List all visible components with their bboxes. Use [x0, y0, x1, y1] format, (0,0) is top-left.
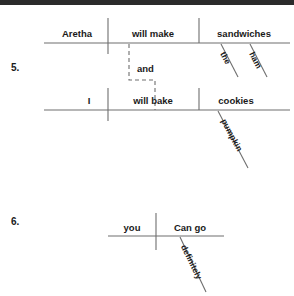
ex5-clause2-verb: will bake — [133, 95, 173, 106]
ex5-clause2-subject: I — [88, 95, 91, 106]
worksheet-page: 5. Aretha will make sandwiches the ham a… — [0, 0, 294, 296]
ex6-subject: you — [124, 222, 141, 233]
ex5-clause1-subject: Aretha — [62, 28, 92, 39]
ex5-clause1-object: sandwiches — [217, 28, 271, 39]
ex6-modifier-1: definitely — [179, 243, 204, 281]
ex5-clause2-object: cookies — [218, 95, 253, 106]
ex6-verb: Can go — [174, 222, 206, 233]
ex5-clause2-modifier-1: pumpkin — [219, 117, 244, 153]
ex5-clause1-modifier-2: ham — [247, 50, 264, 70]
exercise-number-5: 5. — [11, 62, 19, 73]
ex5-clause1-verb: will make — [132, 28, 174, 39]
ex5-clause1-modifier-1: the — [218, 50, 233, 66]
page-top-band — [0, 0, 294, 5]
exercise-number-6: 6. — [11, 216, 19, 227]
ex5-conjunction-label: and — [135, 63, 156, 74]
diagram-lines-layer — [0, 0, 294, 296]
